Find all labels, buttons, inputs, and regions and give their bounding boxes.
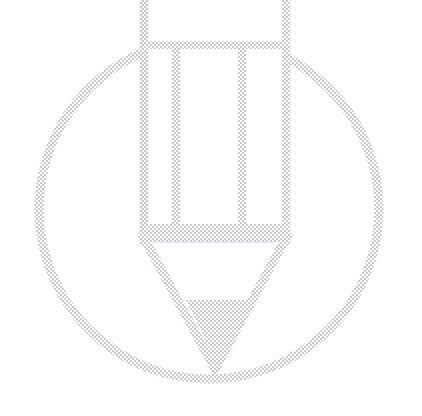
edit-pencil-watermark xyxy=(0,0,422,416)
pencil-body-icon xyxy=(144,0,286,240)
watermark-canvas xyxy=(0,0,422,416)
